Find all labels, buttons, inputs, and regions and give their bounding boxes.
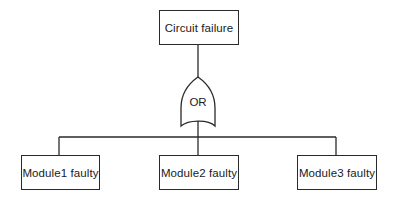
basic-event-module3-box: Module3 faulty — [297, 155, 377, 190]
basic-event-module2-box: Module2 faulty — [159, 155, 239, 190]
top-event-label: Circuit failure — [165, 22, 234, 34]
or-gate-label: OR — [178, 96, 218, 108]
basic-event-module1-box: Module1 faulty — [21, 155, 100, 190]
top-event-box: Circuit failure — [159, 10, 239, 45]
basic-event-module1-label: Module1 faulty — [22, 167, 98, 179]
basic-event-module2-label: Module2 faulty — [161, 167, 237, 179]
basic-event-module3-label: Module3 faulty — [299, 167, 375, 179]
